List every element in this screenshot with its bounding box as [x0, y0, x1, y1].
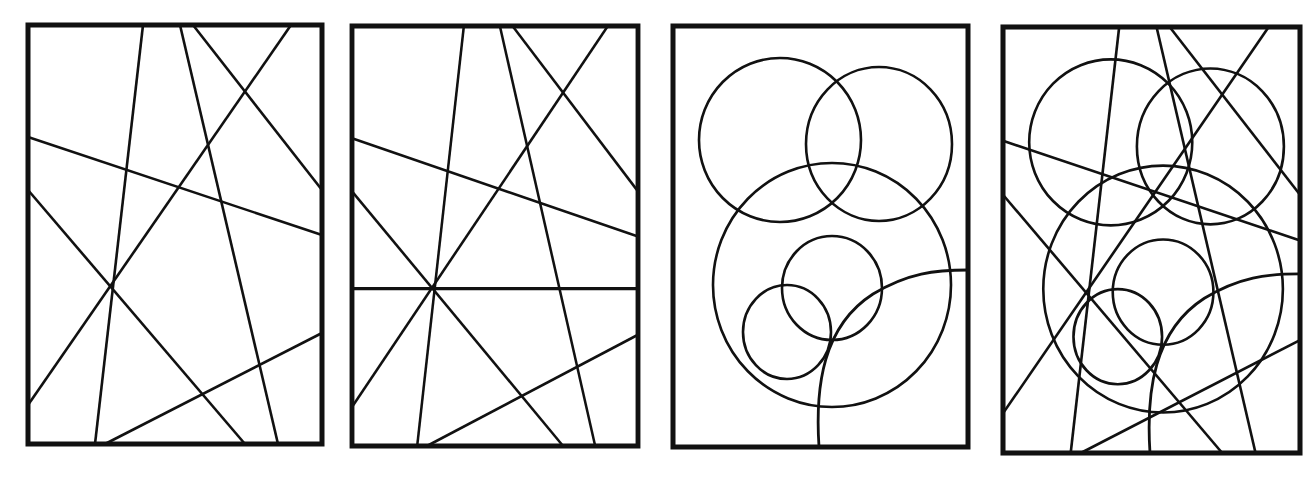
diagram-line	[427, 335, 638, 446]
panel-combined	[1003, 27, 1300, 453]
diagram-line	[352, 191, 563, 446]
diagram-line	[1081, 340, 1300, 453]
diagram-line	[95, 25, 143, 444]
diagram-line	[417, 26, 464, 446]
diagram-circle	[1043, 166, 1283, 413]
diagram-line	[28, 25, 291, 405]
diagram-arc	[818, 270, 968, 447]
diagram-circle	[1113, 239, 1214, 344]
diagram-line	[28, 190, 245, 444]
line-pattern-horizontal-diagram	[352, 26, 638, 446]
diagram-line	[1003, 141, 1300, 241]
diagram-circle	[806, 67, 952, 221]
panel-lines	[28, 25, 322, 444]
panel-frame	[28, 25, 322, 444]
circle-pattern-diagram	[673, 26, 968, 447]
diagram-line	[352, 138, 638, 236]
diagram-line	[105, 333, 322, 444]
diagram-circle	[743, 285, 831, 379]
diagram-circle	[713, 163, 951, 407]
diagram-line	[352, 26, 608, 407]
panel-circles	[673, 26, 968, 447]
diagram-circle	[1073, 289, 1162, 384]
diagram-arc	[1149, 274, 1300, 453]
panel-lines-horizontal	[352, 26, 638, 446]
diagram-line	[28, 137, 322, 235]
combined-pattern-diagram	[1003, 27, 1300, 453]
panel-frame	[352, 26, 638, 446]
diagram-line	[1003, 195, 1222, 453]
diagram-circle	[782, 236, 882, 340]
line-pattern-diagram	[28, 25, 322, 444]
